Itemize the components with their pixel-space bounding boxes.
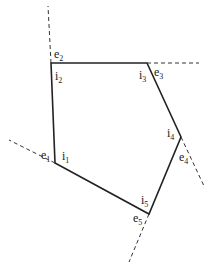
- extension-line-2: [48, 6, 51, 63]
- label-i5: i5: [141, 193, 148, 209]
- label-i4: i4: [167, 126, 174, 142]
- label-e1: e1: [41, 148, 50, 164]
- pentagon-diagram: e1 i1 e2 i2 i3 e3 i4 e4 i5 e5: [0, 0, 214, 274]
- label-e4: e4: [179, 150, 188, 166]
- label-i2: i2: [55, 69, 62, 85]
- label-e3: e3: [154, 65, 163, 81]
- label-e2: e2: [54, 47, 63, 63]
- pentagon-outline: [51, 63, 181, 214]
- label-e5: e5: [133, 211, 142, 227]
- label-i1: i1: [62, 149, 69, 165]
- label-i3: i3: [139, 68, 146, 84]
